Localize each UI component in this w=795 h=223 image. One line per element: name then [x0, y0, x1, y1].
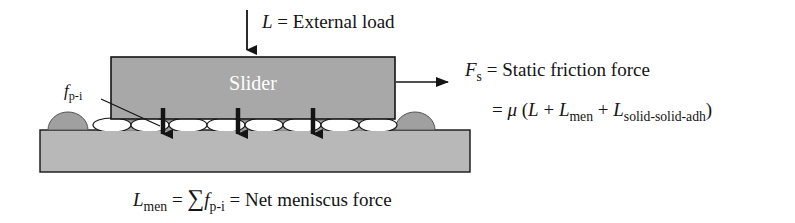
eq-equals: = — [492, 99, 507, 120]
meniscus-bridge-8 — [359, 118, 397, 132]
meniscus-bridge-3 — [169, 118, 207, 132]
fpi-subscript: p-i — [69, 89, 83, 103]
friction-equation: = μ (L + Lmen + Lsolid-solid-adh) — [492, 100, 712, 124]
eq-plus-2: + — [593, 99, 613, 120]
net-meniscus-text: Net meniscus force — [245, 189, 392, 210]
eq-term-Lmen-subscript: men — [569, 109, 593, 124]
friction-text: Static friction force — [502, 59, 650, 80]
meniscus-bridge-1 — [93, 118, 131, 132]
load-equals: = — [273, 11, 293, 32]
eq-mu: μ — [507, 99, 517, 120]
meniscus-bridge-5 — [245, 118, 283, 132]
asperity-left-outer — [48, 112, 88, 130]
fpi-callout-label: fp-i — [64, 82, 82, 103]
asperity-right-outer — [395, 112, 435, 130]
net-meniscus-force-label: Lmen = ∑fp-i = Net meniscus force — [133, 186, 392, 214]
load-text: External load — [293, 11, 395, 32]
friction-schematic-figure: Slider L = External load Fs = Static fri… — [0, 0, 795, 223]
friction-equals: = — [482, 59, 502, 80]
load-symbol: L — [262, 11, 273, 32]
static-friction-label: Fs = Static friction force — [465, 60, 650, 84]
slider-label: Slider — [111, 72, 395, 95]
net-meniscus-subscript: men — [144, 199, 168, 214]
net-meniscus-symbol: L — [133, 189, 144, 210]
summation-sigma: ∑ — [187, 185, 204, 211]
meniscus-bridge-7 — [321, 118, 359, 132]
external-load-label: L = External load — [262, 12, 395, 32]
meniscus-bridge-6 — [283, 118, 321, 132]
eq-plus-1: + — [539, 99, 559, 120]
eq-term-Lmen: L — [559, 99, 570, 120]
eq-close-paren: ) — [706, 99, 712, 120]
friction-symbol: F — [465, 59, 477, 80]
eq-open-paren: ( — [517, 99, 528, 120]
net-meniscus-equals-1: = — [167, 189, 187, 210]
eq-term-Ladh: L — [613, 99, 624, 120]
eq-term-L: L — [528, 99, 539, 120]
net-meniscus-equals-2: = — [225, 189, 245, 210]
substrate-block — [40, 130, 470, 172]
net-meniscus-term-subscript: p-i — [210, 199, 225, 214]
eq-term-Ladh-subscript: solid-solid-adh — [624, 109, 706, 124]
